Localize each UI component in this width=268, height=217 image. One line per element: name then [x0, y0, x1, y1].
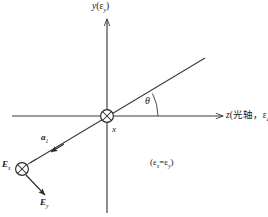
- equation-eq: =ε: [159, 157, 168, 167]
- Ex-field-label: Ex: [2, 160, 11, 171]
- x-axis-center-label: x: [112, 125, 116, 134]
- y-axis-label: y(εy): [92, 2, 109, 14]
- diagram-canvas: [0, 0, 268, 217]
- permittivity-equation-label: (εx=εy): [150, 158, 174, 169]
- Ey-vector-arrow: [26, 175, 45, 195]
- z-axis-label-sub: z: [267, 116, 268, 122]
- z-axis-label-paren: (光轴，ε: [230, 110, 267, 120]
- Ex-field-label-sub: x: [8, 165, 10, 171]
- inclined-axis-line: [30, 58, 205, 163]
- a-vector-label: a1: [41, 133, 48, 144]
- Ey-field-label-sub: y: [46, 203, 48, 209]
- origin-crossed-circle-icon: [101, 110, 114, 123]
- field-crossed-circle-icon: [16, 163, 29, 176]
- theta-angle-arc: [153, 94, 159, 117]
- a-vector-arrow: [51, 144, 64, 152]
- Ey-field-label: Ey: [40, 198, 49, 209]
- equation-close: ): [171, 157, 174, 167]
- y-axis-label-close: ): [106, 1, 109, 11]
- diagram-root: y(εy) z(光轴，εz) x θ a1 Ex Ey (εx=εy): [0, 0, 268, 217]
- z-axis-label: z(光轴，εz): [226, 111, 268, 123]
- a-vector-label-sub: 1: [46, 138, 49, 144]
- theta-angle-label: θ: [145, 96, 150, 106]
- equation-open: (ε: [150, 157, 157, 167]
- field-connector-line: [28, 159, 37, 165]
